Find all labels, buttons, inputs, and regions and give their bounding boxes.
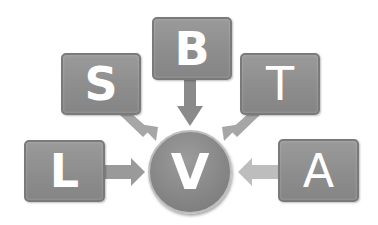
node-s: S <box>61 53 141 115</box>
arrow-a-to-v <box>238 158 278 186</box>
node-t-label: T <box>266 61 294 107</box>
node-b: B <box>152 17 232 80</box>
node-t: T <box>240 53 320 115</box>
arrow-l-to-v <box>105 158 145 186</box>
node-l-label: L <box>50 148 79 194</box>
arrow-t-to-v <box>222 113 262 141</box>
node-l: L <box>24 140 105 202</box>
node-s-label: S <box>84 61 117 107</box>
node-a: A <box>278 139 359 202</box>
arrow-s-to-v <box>118 113 158 141</box>
node-b-label: B <box>174 26 209 72</box>
center-node-label: V <box>171 143 210 201</box>
center-node-v: V <box>148 130 232 214</box>
arrow-b-to-v <box>177 80 203 126</box>
node-a-label: A <box>303 148 334 194</box>
